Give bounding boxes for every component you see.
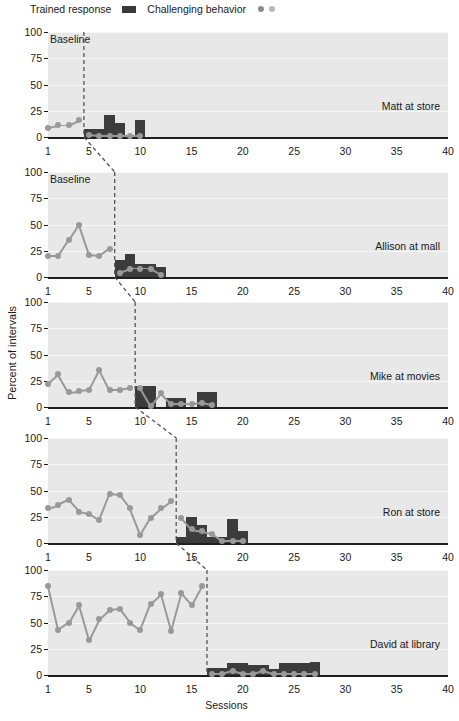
challenging-behavior-point <box>127 133 133 139</box>
gridline <box>48 32 448 33</box>
panel-title: Mike at movies <box>370 370 440 382</box>
challenging-behavior-point <box>137 266 143 272</box>
challenging-behavior-point <box>86 132 92 138</box>
challenging-behavior-point <box>148 515 154 521</box>
y-tick-label: 75 <box>14 193 42 203</box>
gridline <box>48 355 448 356</box>
y-tick-label: 50 <box>14 486 42 496</box>
challenging-behavior-point <box>168 628 174 634</box>
y-tick-label: 75 <box>14 459 42 469</box>
x-tick-label: 30 <box>333 416 357 427</box>
x-tick-label: 10 <box>128 684 152 695</box>
plot-area <box>48 172 448 277</box>
x-tick-label: 25 <box>282 684 306 695</box>
challenging-behavior-point <box>148 601 154 607</box>
challenging-behavior-point <box>137 532 143 538</box>
y-tick <box>44 172 48 173</box>
challenging-behavior-point <box>86 252 92 258</box>
challenging-behavior-point <box>271 671 277 677</box>
y-tick-label: 25 <box>14 376 42 386</box>
x-tick-label: 40 <box>436 416 459 427</box>
x-tick-label: 10 <box>128 416 152 427</box>
x-tick-label: 5 <box>77 552 101 563</box>
challenging-behavior-point <box>66 237 72 243</box>
x-tick-label: 35 <box>385 552 409 563</box>
x-tick-label: 25 <box>282 416 306 427</box>
panel-ron-at-store: 02550751001510152025303540Ron at store <box>0 438 453 571</box>
challenging-behavior-point <box>312 671 318 677</box>
y-tick-label: 75 <box>14 53 42 63</box>
panel-david-at-library: 02550751001510152025303540David at libra… <box>0 570 453 703</box>
baseline-annotation: Baseline <box>50 33 90 45</box>
x-tick-label: 25 <box>282 146 306 157</box>
panel-title: Matt at store <box>382 100 440 112</box>
legend-dot-secondary <box>269 6 275 12</box>
y-tick-label: 100 <box>14 433 42 443</box>
challenging-behavior-point <box>107 607 113 613</box>
challenging-behavior-point <box>148 403 154 409</box>
challenging-behavior-point <box>45 253 51 259</box>
x-tick-label: 15 <box>180 552 204 563</box>
challenging-behavior-point <box>66 620 72 626</box>
legend-label-trained-response: Trained response <box>30 2 111 16</box>
challenging-behavior-point <box>189 401 195 407</box>
panel-mike-at-movies: 02550751001510152025303540Mike at movies <box>0 302 453 435</box>
y-tick <box>44 302 48 303</box>
challenging-behavior-point <box>76 222 82 228</box>
x-tick-label: 20 <box>231 684 255 695</box>
challenging-behavior-point <box>199 400 205 406</box>
y-tick-label: 75 <box>14 323 42 333</box>
challenging-behavior-point <box>127 266 133 272</box>
y-tick-label: 50 <box>14 350 42 360</box>
panel-title: Ron at store <box>383 506 440 518</box>
x-tick-label: 5 <box>77 416 101 427</box>
x-axis-line <box>48 675 448 677</box>
challenging-behavior-point <box>107 246 113 252</box>
gridline <box>48 85 448 86</box>
challenging-behavior-point <box>230 538 236 544</box>
y-tick-label: 0 <box>14 538 42 548</box>
y-tick <box>44 198 48 199</box>
x-tick-label: 40 <box>436 684 459 695</box>
gridline <box>48 198 448 199</box>
gridline <box>48 302 448 303</box>
gridline <box>48 58 448 59</box>
y-tick <box>44 649 48 650</box>
x-tick-label: 10 <box>128 286 152 297</box>
panel-allison-at-mall: 02550751001510152025303540Allison at mal… <box>0 172 453 305</box>
x-tick-label: 35 <box>385 684 409 695</box>
challenging-behavior-point <box>281 671 287 677</box>
y-tick-label: 25 <box>14 106 42 116</box>
x-tick-label: 30 <box>333 684 357 695</box>
y-tick <box>44 438 48 439</box>
gridline <box>48 328 448 329</box>
x-tick-label: 35 <box>385 286 409 297</box>
challenging-behavior-point <box>240 671 246 677</box>
x-tick-label: 15 <box>180 286 204 297</box>
x-tick-label: 30 <box>333 552 357 563</box>
x-tick-label: 10 <box>128 552 152 563</box>
x-tick-label: 25 <box>282 552 306 563</box>
y-tick-label: 75 <box>14 591 42 601</box>
x-tick-label: 35 <box>385 416 409 427</box>
panel-title: David at library <box>370 638 440 650</box>
x-tick-label: 40 <box>436 146 459 157</box>
x-tick-label: 30 <box>333 286 357 297</box>
challenging-behavior-point <box>45 381 51 387</box>
x-tick-label: 15 <box>180 146 204 157</box>
y-tick-label: 0 <box>14 670 42 680</box>
x-tick-label: 20 <box>231 552 255 563</box>
y-tick <box>44 111 48 112</box>
x-tick-label: 1 <box>36 552 60 563</box>
challenging-behavior-point <box>209 531 215 537</box>
y-tick <box>44 32 48 33</box>
y-tick <box>44 623 48 624</box>
x-tick-label: 40 <box>436 552 459 563</box>
challenging-behavior-point <box>189 526 195 532</box>
challenging-behavior-point <box>168 401 174 407</box>
y-tick-label: 25 <box>14 512 42 522</box>
y-tick-label: 0 <box>14 132 42 142</box>
y-tick <box>44 491 48 492</box>
challenging-behavior-point <box>76 388 82 394</box>
